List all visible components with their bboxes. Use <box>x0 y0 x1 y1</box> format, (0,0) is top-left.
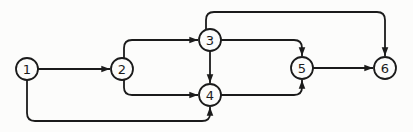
node-label-4: 4 <box>206 88 214 103</box>
edge-1-4 <box>27 80 210 121</box>
node-4: 4 <box>199 84 221 106</box>
node-label-5: 5 <box>298 61 306 76</box>
edge-4-5 <box>221 80 302 95</box>
node-2: 2 <box>111 58 133 80</box>
node-label-1: 1 <box>23 62 31 77</box>
node-6: 6 <box>374 57 396 79</box>
node-label-3: 3 <box>206 33 214 48</box>
node-label-6: 6 <box>381 61 389 76</box>
directed-graph-diagram: 123456 <box>0 0 413 132</box>
edge-2-3 <box>124 40 198 58</box>
node-1: 1 <box>16 58 38 80</box>
node-5: 5 <box>291 57 313 79</box>
node-label-2: 2 <box>118 62 126 77</box>
node-3: 3 <box>199 29 221 51</box>
edge-3-5 <box>221 40 302 56</box>
edge-3-6 <box>206 12 385 56</box>
edge-2-4 <box>124 80 198 95</box>
figure-canvas: 123456 <box>0 0 413 132</box>
